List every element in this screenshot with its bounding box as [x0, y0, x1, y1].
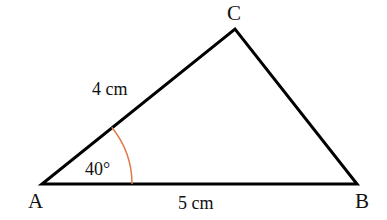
vertex-label-a: A	[28, 189, 44, 213]
angle-label-a: 40°	[85, 159, 110, 179]
angle-a-arc	[112, 127, 132, 184]
side-label-ac: 4 cm	[92, 79, 128, 99]
side-label-ab: 5 cm	[178, 193, 214, 213]
vertex-label-b: B	[355, 189, 369, 213]
triangle-diagram: A B C 4 cm 5 cm 40°	[0, 0, 387, 220]
vertex-label-c: C	[227, 1, 241, 25]
